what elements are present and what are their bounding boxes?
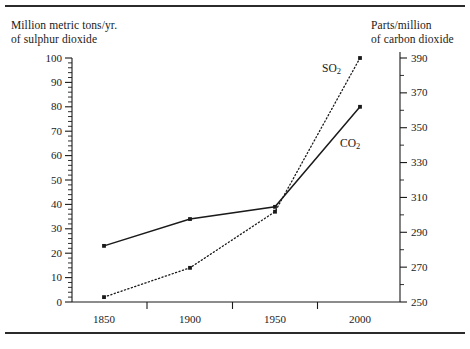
left-axis-tick-label: 0 [28, 297, 62, 308]
right-axis-tick-label: 350 [411, 122, 451, 133]
data-point-co2 [358, 105, 362, 109]
right-axis-tick-label: 270 [411, 262, 451, 273]
left-axis-tick-label: 20 [28, 248, 62, 259]
right-axis-tick-label: 390 [411, 53, 451, 64]
data-point-so2 [358, 56, 362, 60]
chart-figure: Million metric tons/yr. of sulphur dioxi… [0, 0, 470, 349]
so2-series-label: SO2 [322, 62, 341, 75]
right-axis-tick-label: 310 [411, 192, 451, 203]
data-point-so2 [273, 210, 277, 214]
left-axis-tick-label: 30 [28, 223, 62, 234]
data-point-co2 [273, 205, 277, 209]
co2-series-label: CO2 [340, 137, 360, 150]
series-line-so2 [104, 58, 360, 297]
right-axis-tick-label: 330 [411, 157, 451, 168]
right-axis-tick-label: 370 [411, 87, 451, 98]
left-axis-tick-label: 100 [28, 53, 62, 64]
x-axis-tick-label: 2000 [335, 314, 385, 325]
data-point-so2 [188, 266, 192, 270]
series-lines [104, 58, 360, 297]
left-axis-ticks [65, 58, 72, 302]
axis-lines [72, 52, 400, 302]
left-axis-tick-label: 10 [28, 272, 62, 283]
x-axis-tick-label: 1850 [79, 314, 129, 325]
data-point-co2 [102, 244, 106, 248]
left-axis-tick-label: 60 [28, 150, 62, 161]
x-axis-tick-label: 1950 [250, 314, 300, 325]
right-axis-ticks [400, 58, 407, 302]
left-axis-tick-label: 50 [28, 175, 62, 186]
data-point-so2 [102, 295, 106, 299]
left-axis-tick-label: 70 [28, 126, 62, 137]
right-axis-tick-label: 290 [411, 227, 451, 238]
x-axis-tick-label: 1900 [165, 314, 215, 325]
series-markers [102, 56, 362, 299]
plot-area [0, 0, 470, 349]
left-axis-tick-label: 80 [28, 101, 62, 112]
data-point-co2 [188, 217, 192, 221]
left-axis-tick-label: 40 [28, 199, 62, 210]
left-axis-tick-label: 90 [28, 77, 62, 88]
x-axis-ticks [147, 302, 318, 309]
right-axis-tick-label: 250 [411, 297, 451, 308]
